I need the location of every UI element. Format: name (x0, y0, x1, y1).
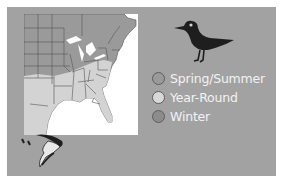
standing-bird-illustration (170, 14, 242, 64)
flying-bird-illustration (14, 131, 76, 171)
range-map-panel: Spring/Summer Year-Round Winter (7, 7, 276, 176)
legend-item-year-round: Year-Round (152, 88, 265, 106)
us-states-map (24, 14, 138, 135)
legend-label: Year-Round (170, 90, 238, 105)
year-round-swatch-icon (152, 91, 165, 104)
legend-item-spring-summer: Spring/Summer (152, 69, 265, 87)
range-map (24, 14, 138, 135)
legend-item-winter: Winter (152, 107, 265, 125)
legend-label: Spring/Summer (170, 71, 265, 86)
legend-label: Winter (170, 109, 210, 124)
season-legend: Spring/Summer Year-Round Winter (152, 69, 265, 126)
spring-summer-swatch-icon (152, 72, 165, 85)
winter-swatch-icon (152, 110, 165, 123)
